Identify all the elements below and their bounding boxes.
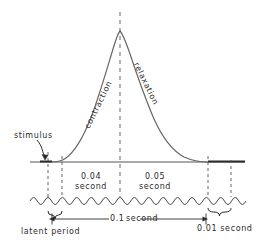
total-duration-unit: second xyxy=(126,214,158,224)
relaxation-duration-label: 0.05 second xyxy=(135,172,175,192)
stimulus-arrow-head xyxy=(42,155,48,160)
latent-period-brace xyxy=(48,211,62,219)
relaxation-duration-value: 0.05 xyxy=(135,172,175,182)
tick-interval-brace xyxy=(208,208,231,216)
total-duration-value: 0.1 xyxy=(110,214,125,224)
myogram-drawing xyxy=(0,0,275,246)
contraction-duration-label: 0.04 second xyxy=(71,172,111,192)
contraction-duration-unit: second xyxy=(71,182,111,192)
time-marker-wave xyxy=(30,198,246,205)
total-time-arrow-right-head xyxy=(203,217,209,222)
stimulus-label: stimulus xyxy=(14,131,53,141)
stimulus-arrow-shaft xyxy=(37,140,45,157)
muscle-twitch-figure: stimulus contraction relaxation 0.04 sec… xyxy=(0,0,275,246)
twitch-curve xyxy=(52,31,208,162)
latent-period-label: latent period xyxy=(21,227,80,237)
tick-interval-label: 0.01 second xyxy=(197,224,253,234)
contraction-duration-value: 0.04 xyxy=(71,172,111,182)
relaxation-duration-unit: second xyxy=(135,182,175,192)
